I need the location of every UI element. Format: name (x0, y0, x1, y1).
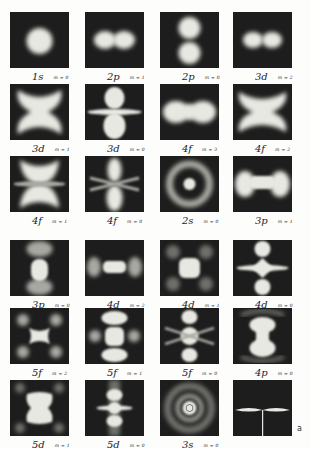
orbital-image-4f-m1 (10, 156, 69, 212)
orbital-name: 3d (107, 143, 120, 154)
orbital-caption: 5dm = 1 (32, 439, 70, 449)
orbital-name: 3d (255, 71, 268, 82)
magnetic-quantum-number: m = 2 (275, 147, 290, 152)
magnetic-quantum-number: m = 3 (202, 147, 217, 152)
orbital-image-extra (233, 380, 292, 436)
orbital-caption: 4fm = 3 (182, 143, 217, 154)
orbital-caption: 4fm = 0 (107, 215, 142, 226)
orbital-caption: 5dm = 0 (107, 439, 145, 449)
orbital-image-3s-m0 (160, 380, 219, 436)
orbital-caption: 5fm = 0 (182, 367, 217, 378)
orbital-image-4p-m0 (233, 308, 292, 364)
orbital-caption: 3dm = 2 (255, 71, 293, 82)
magnetic-quantum-number: m = 0 (130, 443, 145, 448)
orbital-caption: 2sm = 0 (182, 215, 219, 226)
magnetic-quantum-number: m = 2 (52, 371, 67, 376)
orbital-caption: 2pm = 0 (182, 71, 220, 82)
magnetic-quantum-number: m = 1 (130, 75, 145, 80)
figure-panel-label: a (297, 424, 302, 433)
orbital-name: 2p (182, 71, 195, 82)
magnetic-quantum-number: m = 2 (278, 75, 293, 80)
orbital-image-5d-m0 (85, 380, 144, 436)
magnetic-quantum-number: m = 0 (127, 219, 142, 224)
magnetic-quantum-number: m = 0 (204, 443, 219, 448)
magnetic-quantum-number: m = 1 (278, 219, 293, 224)
orbital-caption: 3dm = 1 (32, 143, 70, 154)
magnetic-quantum-number: m = 1 (52, 219, 67, 224)
orbital-caption: 4fm = 1 (32, 215, 67, 226)
orbital-image-3d-m2 (233, 12, 292, 68)
orbital-caption: 5fm = 1 (107, 367, 142, 378)
orbital-image-4d-m1 (160, 240, 219, 296)
orbital-image-1s-m0 (10, 12, 69, 68)
orbital-image-5f-m0 (160, 308, 219, 364)
orbital-name: 4f (255, 143, 265, 154)
magnetic-quantum-number: m = 0 (278, 371, 293, 376)
magnetic-quantum-number: m = 0 (205, 75, 220, 80)
orbital-caption: 3dm = 0 (107, 143, 145, 154)
orbital-caption: 3pm = 1 (255, 215, 293, 226)
orbital-image-2p-m0 (160, 12, 219, 68)
orbital-name: 4f (32, 215, 42, 226)
orbital-image-4f-m0 (85, 156, 144, 212)
orbital-name: 2p (107, 71, 120, 82)
orbital-name: 2s (182, 215, 194, 226)
magnetic-quantum-number: m = 0 (204, 219, 219, 224)
magnetic-quantum-number: m = 0 (130, 147, 145, 152)
orbital-name: 5f (32, 367, 42, 378)
orbital-name: 4p (255, 367, 268, 378)
orbital-image-5d-m1 (10, 380, 69, 436)
orbital-caption: 4pm = 0 (255, 367, 293, 378)
orbital-name: 3p (255, 215, 268, 226)
orbital-name: 5f (182, 367, 192, 378)
orbital-caption: 3sm = 0 (182, 439, 219, 449)
orbital-image-3p-m0 (10, 240, 69, 296)
orbital-caption: 1sm = 0 (32, 71, 69, 82)
orbital-image-5f-m2 (10, 308, 69, 364)
orbital-image-2s-m0 (160, 156, 219, 212)
orbital-image-3d-m0 (85, 84, 144, 140)
orbital-caption: 4fm = 2 (255, 143, 290, 154)
orbital-name: 4f (182, 143, 192, 154)
orbital-image-4f-m3 (160, 84, 219, 140)
orbital-image-2p-m1 (85, 12, 144, 68)
orbital-name: 3d (32, 143, 45, 154)
magnetic-quantum-number: m = 1 (55, 147, 70, 152)
orbital-image-4f-m2 (233, 84, 292, 140)
orbital-name: 5f (107, 367, 117, 378)
orbital-image-3d-m1 (10, 84, 69, 140)
magnetic-quantum-number: m = 1 (127, 371, 142, 376)
orbital-caption: 5fm = 2 (32, 367, 67, 378)
orbital-caption: 2pm = 1 (107, 71, 145, 82)
orbital-name: 5d (32, 439, 45, 449)
magnetic-quantum-number: m = 1 (55, 443, 70, 448)
magnetic-quantum-number: m = 0 (54, 75, 69, 80)
orbital-image-5f-m1 (85, 308, 144, 364)
orbital-name: 1s (32, 71, 44, 82)
orbital-image-3p-m1 (233, 156, 292, 212)
orbital-name: 3s (182, 439, 194, 449)
magnetic-quantum-number: m = 0 (202, 371, 217, 376)
orbital-image-4d-m2 (85, 240, 144, 296)
orbital-name: 5d (107, 439, 120, 449)
orbital-image-4d-m0 (233, 240, 292, 296)
orbital-name: 4f (107, 215, 117, 226)
